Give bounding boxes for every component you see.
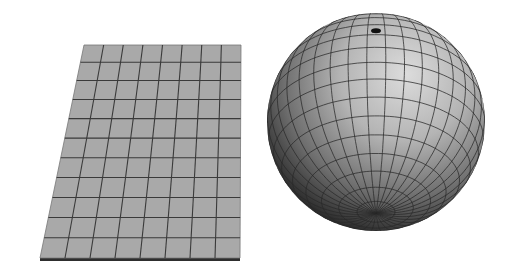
grid-sphere	[267, 13, 485, 231]
plane-surface	[40, 45, 241, 258]
plane-edge	[40, 258, 240, 261]
figure-canvas	[0, 0, 510, 272]
sphere-pole	[371, 28, 381, 33]
flat-grid-plane	[40, 45, 241, 261]
